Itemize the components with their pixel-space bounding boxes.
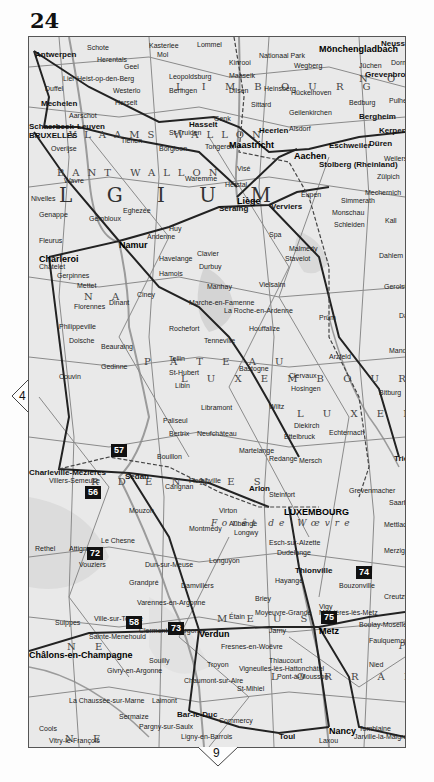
city-label: Étain [229, 613, 245, 620]
city-label: Jarville-la-Malgrange [354, 733, 406, 740]
city-label: Overijse [51, 145, 77, 152]
city-label: Dormagen [391, 59, 406, 66]
west-page-number: 4 [19, 389, 26, 403]
city-label: Dinant [109, 299, 129, 306]
city-label: Rethel [35, 545, 55, 552]
city-label: Damvillers [181, 582, 214, 589]
city-label: Bastogne [239, 365, 269, 372]
inset-map-reference[interactable]: 75 [321, 611, 337, 624]
city-label: Spa [269, 231, 281, 238]
city-label: Zülpich [377, 173, 400, 180]
city-label: Jarny [269, 627, 286, 634]
city-label: Doische [69, 337, 94, 344]
city-label: Aarschot [69, 112, 97, 119]
city-label: Villers-Semeuse [49, 477, 100, 484]
city-label: Florenville [189, 477, 221, 484]
city-label: Herstal [225, 181, 247, 188]
city-label: Heist-op-den-Berg [77, 75, 134, 82]
city-label: Merzig [384, 547, 405, 554]
city-label: Longwy [234, 529, 258, 536]
city-label: Eupen [301, 191, 321, 198]
city-label: St-Truiden [169, 129, 201, 136]
city-label: Geel [124, 63, 139, 70]
city-label: Simmerath [341, 197, 375, 204]
city-label: Vielsalm [259, 281, 285, 288]
inset-map-reference[interactable]: 57 [111, 444, 127, 457]
city-label: Dudelange [277, 549, 311, 556]
city-label: Souilly [149, 657, 170, 664]
city-label: Chaumont-sur-Aire [184, 677, 243, 684]
city-label: Moyeuvre-Grande [255, 609, 311, 616]
inset-map-reference[interactable]: 74 [356, 566, 372, 579]
city-label: Esch-sur-Alzette [269, 539, 320, 546]
inset-map-reference[interactable]: 73 [168, 622, 184, 635]
city-label: Echternach [329, 429, 364, 436]
city-label: Grandpré [129, 579, 159, 586]
city-label: Düren [369, 140, 392, 148]
city-label: Laimont [152, 697, 177, 704]
city-label: Malmedy [289, 245, 317, 252]
city-label: Leopoldsburg [169, 73, 211, 80]
city-label: Givry-en-Argonne [107, 667, 162, 674]
city-label: Verviers [271, 203, 302, 211]
city-label: Creutzwald [384, 593, 406, 600]
city-label: Cools [39, 725, 57, 732]
city-label: Schote [87, 44, 109, 51]
city-label: Fresnes-en-Woëvre [221, 643, 283, 650]
city-label: Steinfort [269, 491, 295, 498]
city-label: Toul [279, 733, 295, 741]
city-label: Arzfeld [329, 353, 351, 360]
city-label: Nationaal Park [259, 52, 305, 59]
city-label: Bouillon [157, 453, 182, 460]
city-label: Commercy [219, 717, 253, 724]
inset-map-reference[interactable]: 56 [85, 486, 101, 499]
inset-map-reference[interactable]: 72 [87, 547, 103, 560]
city-label: Wavre [64, 177, 84, 184]
city-label: Laxou [319, 737, 338, 744]
city-label: Longuyon [209, 557, 240, 564]
city-label: Thiaucourt [269, 657, 302, 664]
city-label: Diekirch [294, 422, 319, 429]
city-label: Bedburg [349, 99, 375, 106]
city-label: Grevenbroich [365, 71, 406, 79]
city-label: Havelange [159, 255, 192, 262]
city-label: Fleurus [39, 237, 62, 244]
city-label: Mettet [77, 282, 96, 289]
city-label: Nancy [329, 727, 356, 736]
city-label: St-Hubert [169, 369, 199, 376]
city-label: Sermaize [119, 713, 149, 720]
city-label: Suippes [55, 619, 80, 626]
city-label: Tenneville [204, 337, 235, 344]
city-label: Gerpinnes [57, 272, 89, 279]
city-label: Mettlach [384, 521, 406, 528]
road-map[interactable]: L I M B O U R GN O R DVLAAMS WALLONBANT … [28, 36, 406, 748]
inset-map-reference[interactable]: 58 [126, 616, 142, 629]
city-label: Dun-sur-Meuse [145, 561, 193, 568]
city-label: Aubange [229, 520, 257, 527]
city-label: Dahlem [379, 252, 403, 259]
city-label: Couvin [59, 373, 81, 380]
city-label: Kasterlee [149, 42, 179, 49]
city-label: Ettelbruck [284, 433, 315, 440]
city-label: Duffel [45, 85, 63, 92]
city-label: LUXEMBOURG [284, 508, 349, 517]
city-label: Sainte-Menehould [89, 633, 146, 640]
city-label: Dilsen [229, 87, 248, 94]
city-label: Libin [175, 382, 190, 389]
city-label: Kerpen [379, 127, 406, 135]
city-label: Eghezée [123, 207, 151, 214]
city-label: Ligny-en-Barrois [181, 733, 232, 740]
city-label: Schaerbeek [29, 123, 74, 131]
city-label: Andenne [147, 233, 175, 240]
city-label: Manderscheid [389, 347, 406, 354]
south-page-link[interactable]: 9 [198, 746, 238, 768]
city-label: Stolberg (Rheinland) [319, 161, 398, 169]
city-label: Leuven [77, 123, 105, 131]
city-label: St-Nicolas-de-Port [371, 747, 406, 748]
city-label: Huy [169, 225, 181, 232]
city-label: Pont-à-Mousson [277, 673, 328, 680]
city-label: Bouzonville [339, 582, 375, 589]
city-label: Maaseik [229, 72, 255, 79]
city-label: Herentals [97, 56, 127, 63]
city-label: Grevenmacher [349, 487, 395, 494]
